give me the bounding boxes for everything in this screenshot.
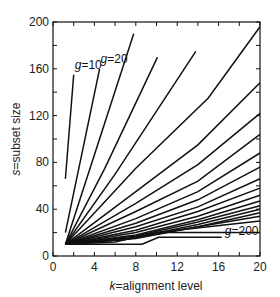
x-axis-label: k=alignment level	[109, 279, 202, 293]
y-tick-label: 40	[36, 202, 50, 216]
x-tick-label: 16	[212, 260, 226, 274]
x-tick-label: 12	[171, 260, 185, 274]
line-annotation: g=20	[101, 52, 128, 66]
y-tick-label: 80	[36, 155, 50, 169]
y-tick-label: 200	[29, 15, 49, 29]
y-tick-label: 160	[29, 62, 49, 76]
series-line	[65, 75, 73, 179]
series-line	[65, 51, 195, 244]
y-tick-label: 120	[29, 109, 49, 123]
chart: 04812162004080120160200 g=10g=20g=200 k=…	[0, 0, 280, 297]
series-line	[65, 69, 99, 233]
x-tick-label: 20	[253, 260, 267, 274]
x-tick-label: 4	[91, 260, 98, 274]
x-tick-label: 0	[50, 260, 57, 274]
series-line	[65, 57, 157, 244]
y-tick-label: 0	[42, 249, 49, 263]
line-annotation: g=200	[225, 224, 259, 238]
line-annotation: g=10	[75, 58, 102, 72]
x-tick-label: 8	[132, 260, 139, 274]
series-line	[142, 237, 222, 244]
y-axis-label: s=subset size	[9, 102, 23, 175]
